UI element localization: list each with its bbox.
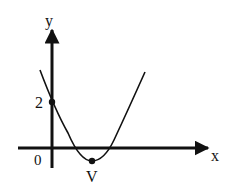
x-axis-label: x [211, 147, 219, 164]
origin-label: 0 [34, 152, 42, 168]
vertex-label: V [86, 168, 98, 185]
y-intercept-point [49, 99, 55, 105]
y-axis-label: y [45, 12, 53, 30]
vertex-point [89, 158, 95, 164]
y-intercept-label: 2 [35, 94, 43, 111]
parabola-diagram: y x 0 2 V [0, 0, 230, 190]
